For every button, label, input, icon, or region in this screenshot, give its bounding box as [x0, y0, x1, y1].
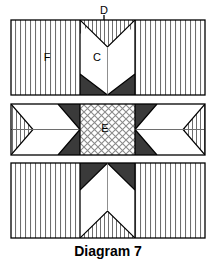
- label-d: D: [100, 4, 108, 16]
- region-arrow-right: [135, 104, 205, 155]
- label-c: C: [93, 51, 101, 63]
- label-e: E: [101, 122, 108, 134]
- region-c: [80, 20, 135, 95]
- figure-caption: Diagram 7: [74, 243, 142, 259]
- label-f: F: [44, 51, 51, 63]
- region-hatch-right: [135, 163, 205, 238]
- diagram-figure: D: [0, 0, 216, 262]
- diagram-canvas: D: [0, 0, 216, 262]
- region-center-bottom: [80, 163, 135, 238]
- panel-top: F C: [11, 20, 205, 95]
- region-arrow-left: [11, 104, 80, 155]
- panel-bottom: [11, 163, 205, 238]
- region-hatch-left: [11, 163, 80, 238]
- region-f-right: [135, 20, 205, 95]
- panel-middle: E: [11, 104, 205, 155]
